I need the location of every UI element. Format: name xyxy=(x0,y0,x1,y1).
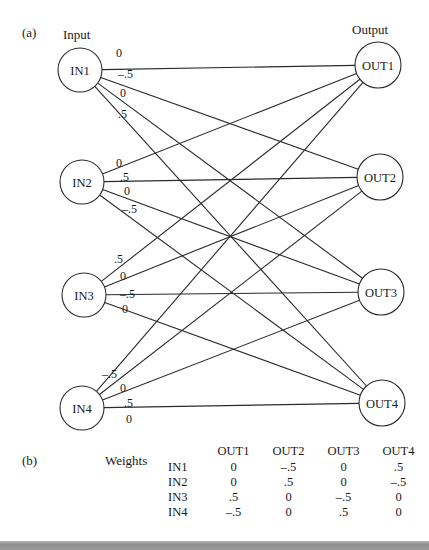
input-layer-heading: Input xyxy=(63,27,90,43)
node-out3: OUT3 xyxy=(358,269,404,315)
weight-cell: 0 xyxy=(316,460,371,475)
column-header: OUT3 xyxy=(316,443,371,460)
connection-in4-out4 xyxy=(104,403,359,407)
connection-in3-out1 xyxy=(101,79,360,281)
node-label: IN4 xyxy=(72,402,92,416)
node-in1: IN1 xyxy=(58,48,102,92)
connection-in1-out1 xyxy=(102,65,355,69)
table-row: IN1 0 –.5 0 .5 xyxy=(168,460,426,475)
weight-label: 0 xyxy=(122,302,128,316)
weight-cell: –.5 xyxy=(261,460,316,475)
weight-cell: –.5 xyxy=(371,475,426,490)
node-out2: OUT2 xyxy=(357,154,403,200)
node-in3: IN3 xyxy=(62,273,106,317)
weight-label: 0 xyxy=(116,156,122,170)
node-label: IN2 xyxy=(72,176,91,190)
weight-label: –.5 xyxy=(119,287,135,301)
weights-table: OUT1 OUT2 OUT3 OUT4 IN1 0 –.5 0 .5 IN2 0… xyxy=(168,443,426,520)
weight-label: .5 xyxy=(118,107,127,121)
node-label: IN1 xyxy=(70,64,89,78)
node-label: OUT3 xyxy=(365,286,397,300)
weight-label: 0 xyxy=(116,46,122,60)
weight-label: –.5 xyxy=(117,67,133,81)
weight-cell: –.5 xyxy=(206,505,261,520)
weight-label: 0 xyxy=(120,381,126,395)
column-header: OUT1 xyxy=(206,443,261,460)
table-row: IN3 .5 0 –.5 0 xyxy=(168,490,426,505)
table-row: IN2 0 .5 0 –.5 xyxy=(168,475,426,490)
connection-in2-out1 xyxy=(103,74,357,174)
weight-cell: 0 xyxy=(371,505,426,520)
connection-lines xyxy=(95,65,367,407)
node-in2: IN2 xyxy=(60,160,104,204)
node-in4: IN4 xyxy=(60,386,104,430)
weight-cell: .5 xyxy=(316,505,371,520)
weight-label: .5 xyxy=(114,252,123,266)
weight-label: –.5 xyxy=(121,202,137,216)
weight-label: 0 xyxy=(126,412,132,426)
panel-a-label: (a) xyxy=(22,25,36,41)
node-label: OUT1 xyxy=(362,59,394,73)
row-header: IN3 xyxy=(168,490,206,505)
weight-label: –.5 xyxy=(101,367,117,381)
page-edge-bar xyxy=(0,541,429,550)
row-header: IN4 xyxy=(168,505,206,520)
node-label: IN3 xyxy=(74,289,93,303)
weight-cell: .5 xyxy=(371,460,426,475)
row-header: IN2 xyxy=(168,475,206,490)
table-header-row: OUT1 OUT2 OUT3 OUT4 xyxy=(168,443,426,460)
column-header: OUT4 xyxy=(371,443,426,460)
node-out1: OUT1 xyxy=(355,42,401,88)
weight-cell: 0 xyxy=(206,475,261,490)
node-label: OUT4 xyxy=(366,397,399,411)
weight-label: 0 xyxy=(120,269,126,283)
weight-cell: .5 xyxy=(206,490,261,505)
weight-cell: 0 xyxy=(316,475,371,490)
weight-cell: 0 xyxy=(261,490,316,505)
connection-in4-out1 xyxy=(96,82,363,391)
weight-label: 0 xyxy=(124,184,130,198)
weight-label: 0 xyxy=(120,86,126,100)
table-row: IN4 –.5 0 .5 0 xyxy=(168,505,426,520)
table-corner xyxy=(168,443,206,460)
connection-in3-out2 xyxy=(104,186,358,287)
row-header: IN1 xyxy=(168,460,206,475)
weight-cell: 0 xyxy=(206,460,261,475)
column-header: OUT2 xyxy=(261,443,316,460)
weight-label: .5 xyxy=(124,396,133,410)
weight-cell: .5 xyxy=(261,475,316,490)
panel-b-label: (b) xyxy=(22,453,37,469)
node-label: OUT2 xyxy=(364,171,396,185)
weight-label: .5 xyxy=(120,170,129,184)
weight-cell: 0 xyxy=(261,505,316,520)
node-out4: OUT4 xyxy=(359,380,405,426)
output-layer-heading: Output xyxy=(352,22,388,38)
weight-cell: 0 xyxy=(371,490,426,505)
connection-in3-out4 xyxy=(105,303,361,396)
weight-cell: –.5 xyxy=(316,490,371,505)
weights-title: Weights xyxy=(105,453,147,469)
